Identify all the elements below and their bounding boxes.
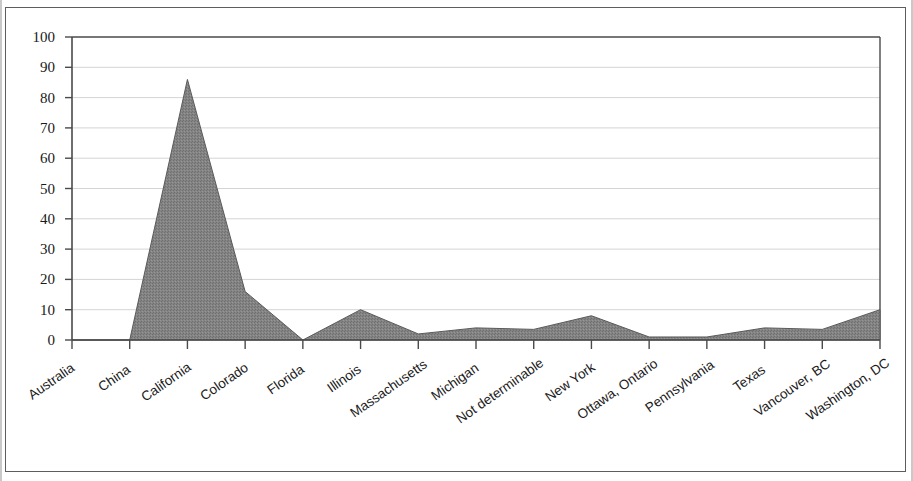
area-series-path [72, 79, 880, 340]
chart-area-series [72, 79, 880, 340]
y-axis-label-20: 20 [15, 272, 55, 287]
y-axis-label-80: 80 [15, 91, 55, 106]
y-axis-label-70: 70 [15, 121, 55, 136]
y-axis-label-30: 30 [15, 242, 55, 257]
y-axis-label-0: 0 [15, 333, 55, 348]
y-axis-label-50: 50 [15, 182, 55, 197]
y-axis-label-100: 100 [15, 30, 55, 45]
chart-plot-svg [0, 0, 913, 481]
area-chart: 1009080706050403020100 AustraliaChinaCal… [0, 0, 913, 481]
chart-x-tick-marks [72, 340, 880, 349]
y-axis-label-40: 40 [15, 212, 55, 227]
y-axis-label-90: 90 [15, 60, 55, 75]
y-axis-label-10: 10 [15, 303, 55, 318]
y-axis-label-60: 60 [15, 151, 55, 166]
chart-y-tick-marks [65, 37, 72, 340]
chart-screenshot: 1009080706050403020100 AustraliaChinaCal… [0, 0, 913, 481]
